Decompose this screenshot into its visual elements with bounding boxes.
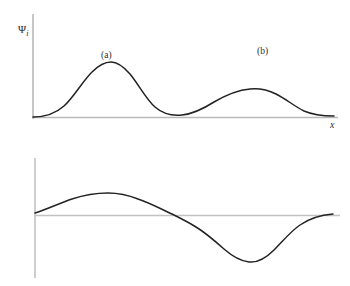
plot-panel-upper: Ψi x (a) (b): [0, 0, 350, 143]
wavefunction-curve-lower: [35, 193, 333, 262]
curve-annotation-b: (b): [257, 47, 268, 57]
wavefunction-curve-upper: [33, 62, 334, 117]
y-axis-subscript-upper: i: [26, 29, 28, 38]
curve-annotation-a: (a): [101, 51, 112, 61]
x-axis-label-upper: x: [330, 120, 334, 130]
plot-panel-lower: Ψj x: [0, 143, 350, 286]
lower-plot-svg: [0, 143, 350, 286]
y-axis-symbol-upper: Ψ: [18, 23, 26, 35]
y-axis-label-upper: Ψi: [18, 24, 28, 38]
figure-container: Ψi x (a) (b) Ψj x: [0, 0, 350, 286]
upper-plot-svg: [0, 0, 350, 143]
